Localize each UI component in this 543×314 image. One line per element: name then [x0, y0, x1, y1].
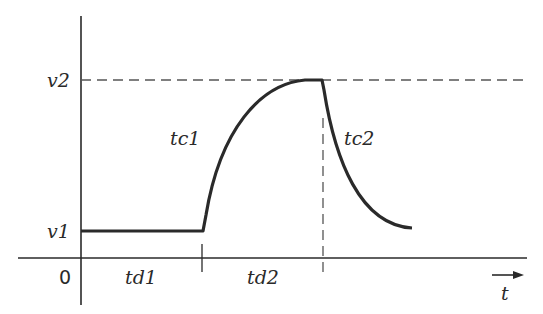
tc2-label: tc2 [344, 127, 374, 149]
t-arrow-head-icon [513, 271, 524, 279]
t-axis-label: t [501, 282, 509, 304]
td2-label: td2 [247, 266, 279, 288]
origin-label: 0 [59, 266, 71, 288]
v1-label: v1 [47, 220, 70, 242]
tc1-label: tc1 [170, 127, 200, 149]
v2-label: v2 [47, 69, 70, 91]
waveform [81, 80, 412, 231]
td1-label: td1 [125, 266, 157, 288]
pulse-diagram: v2 v1 0 td1 td2 tc1 tc2 t [0, 0, 543, 314]
